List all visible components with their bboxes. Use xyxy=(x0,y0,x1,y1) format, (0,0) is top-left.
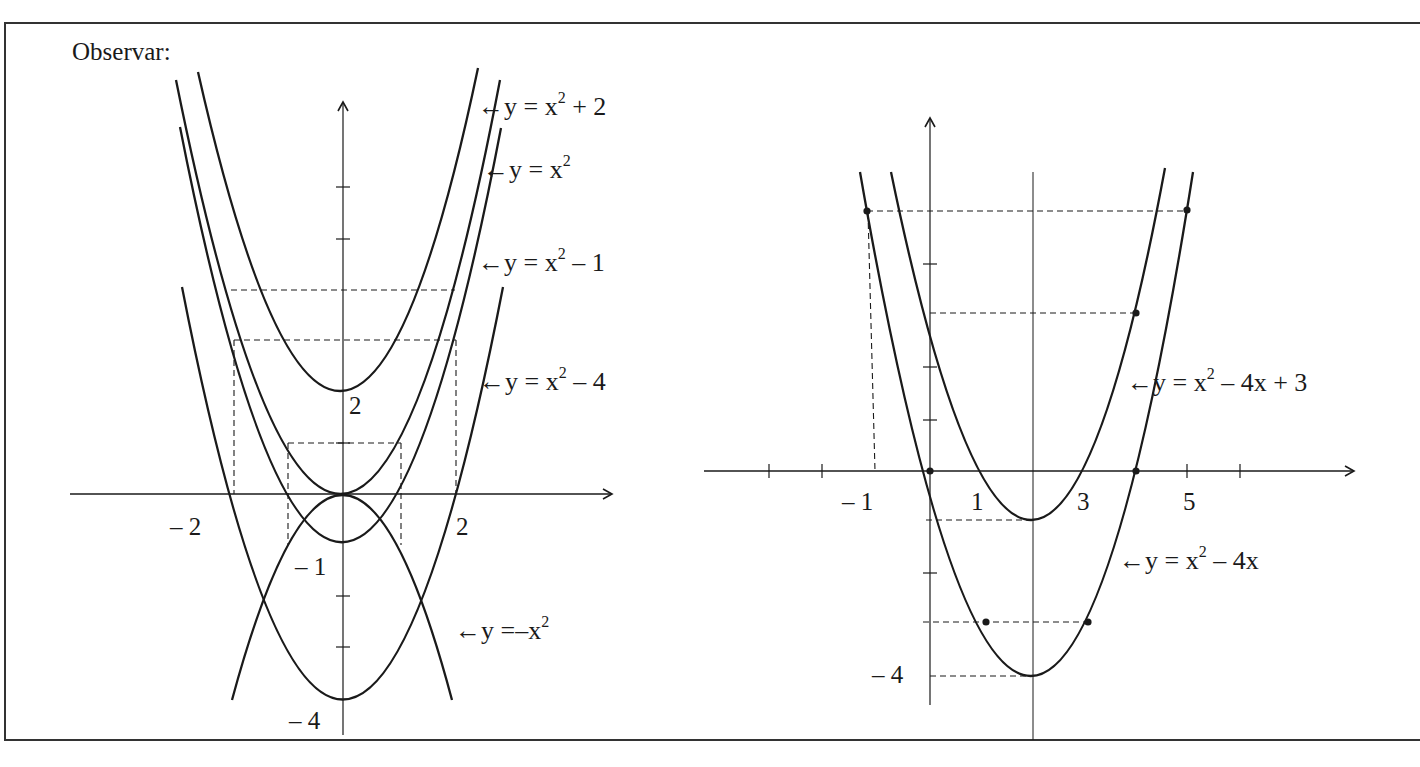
left-y-label-neg4: – 4 xyxy=(289,707,320,735)
right-x-label-1: 1 xyxy=(971,488,984,516)
left-x-label-2: 2 xyxy=(456,513,469,541)
curve-x2-4x xyxy=(860,172,1193,676)
curve-x2-plus-2 xyxy=(198,68,478,391)
legend-x2-minus-1: ←y = x2 – 1 xyxy=(478,248,605,278)
legend-x2: ←y = x2 xyxy=(483,155,571,185)
right-x-label-5: 5 xyxy=(1183,488,1196,516)
right-x-label-3: 3 xyxy=(1077,488,1090,516)
right-x-label-neg1: – 1 xyxy=(842,488,873,516)
curve-x2 xyxy=(176,80,500,494)
legend-x2-plus-2: ←y = x2 + 2 xyxy=(478,92,606,122)
right-y-label-neg4: – 4 xyxy=(872,661,903,689)
curve-x2-4x-plus-3 xyxy=(891,168,1165,520)
legend-neg-x2: ←y =–x2 xyxy=(455,616,549,646)
legend-x2-4x-plus-3: ←y = x2 – 4x + 3 xyxy=(1127,368,1307,398)
left-y-label-2: 2 xyxy=(349,392,362,420)
right-chart xyxy=(704,118,1354,740)
curve-neg-x2 xyxy=(232,495,452,700)
left-x-label-neg2: – 2 xyxy=(170,513,201,541)
legend-x2-minus-4: ←y = x2 – 4 xyxy=(479,367,606,397)
legend-x2-4x: ←y = x2 – 4x xyxy=(1119,546,1259,576)
left-y-label-neg1: – 1 xyxy=(295,553,326,581)
